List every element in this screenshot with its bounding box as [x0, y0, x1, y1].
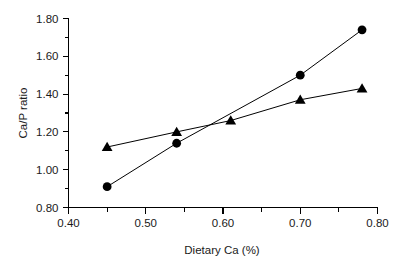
series-triangle-series	[102, 83, 368, 151]
data-series-layer	[102, 25, 368, 191]
y-tick-label: 1.40	[36, 88, 58, 100]
data-point-circle	[103, 182, 112, 191]
y-tick-label: 1.80	[36, 13, 58, 25]
series-circle-series	[103, 25, 367, 191]
chart-canvas: 0.801.001.201.401.601.80 0.400.500.600.7…	[0, 0, 419, 269]
y-axis-title: Ca/P ratio	[17, 88, 29, 139]
series-line	[107, 88, 362, 147]
chart-figure: 0.801.001.201.401.601.80 0.400.500.600.7…	[0, 0, 419, 269]
plot-frame	[69, 19, 378, 208]
y-tick-label: 1.20	[36, 126, 58, 138]
x-tick-label: 0.70	[289, 217, 311, 229]
x-axis-title: Dietary Ca (%)	[184, 244, 260, 256]
data-point-triangle	[225, 115, 236, 124]
data-point-triangle	[357, 83, 368, 92]
y-tick-label: 1.60	[36, 50, 58, 62]
y-tick-label: 0.80	[36, 202, 58, 214]
x-axis-tick-labels: 0.400.500.600.700.80	[57, 217, 388, 229]
x-axis-major-ticks	[69, 208, 378, 214]
data-point-circle	[172, 139, 181, 148]
y-tick-label: 1.00	[36, 164, 58, 176]
x-tick-label: 0.80	[366, 217, 388, 229]
y-axis-tick-labels: 0.801.001.201.401.601.80	[36, 13, 58, 214]
x-tick-label: 0.40	[57, 217, 79, 229]
data-point-circle	[296, 71, 305, 80]
y-axis-minor-ticks	[65, 37, 69, 188]
x-tick-label: 0.60	[212, 217, 234, 229]
series-line	[107, 30, 362, 187]
x-tick-label: 0.50	[135, 217, 157, 229]
data-point-circle	[358, 25, 367, 34]
